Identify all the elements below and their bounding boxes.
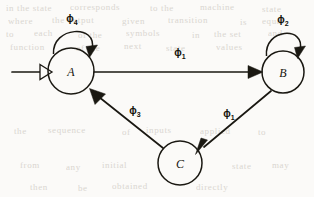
- state-diagram-figure: in the statecorrespondsto themachinestat…: [0, 0, 314, 197]
- transition-label-self-a: ϕ4: [66, 13, 78, 26]
- edge-b-to-c-line: [204, 91, 271, 147]
- start-arrow: [12, 65, 52, 80]
- phi-subscript-self-b: 2: [285, 20, 289, 27]
- transition-label-c-to-a: ϕ3: [129, 105, 141, 118]
- state-node-b[interactable]: B: [262, 51, 304, 93]
- start-arrow-hollow-head: [40, 65, 52, 80]
- phi-subscript-b-to-c: 1: [231, 114, 235, 121]
- state-node-a[interactable]: A: [48, 48, 94, 94]
- self-loop-b-path: [266, 33, 300, 56]
- transition-c-to-a: ϕ3: [90, 89, 164, 149]
- edge-c-to-a-arrowhead: [90, 89, 106, 105]
- transition-b-to-c: ϕ1: [196, 91, 272, 155]
- phi-subscript-c-to-a: 3: [137, 111, 141, 118]
- state-diagram-canvas: ϕ4 ϕ2 ϕ1 ϕ1: [0, 0, 314, 197]
- edge-a-to-b-arrowhead: [248, 66, 263, 79]
- transition-label-a-to-b: ϕ1: [174, 47, 186, 60]
- state-label-a: A: [66, 65, 75, 79]
- transition-label-b-to-c: ϕ1: [223, 108, 235, 121]
- phi-subscript-self-a: 4: [74, 19, 78, 26]
- self-loop-b-arrowhead: [295, 46, 306, 59]
- transition-a-to-b: ϕ1: [94, 47, 263, 79]
- state-label-b: B: [279, 66, 287, 80]
- transition-label-self-b: ϕ2: [277, 14, 289, 27]
- state-label-c: C: [176, 157, 185, 171]
- phi-subscript-a-to-b: 1: [182, 53, 186, 60]
- state-node-c[interactable]: C: [158, 141, 202, 185]
